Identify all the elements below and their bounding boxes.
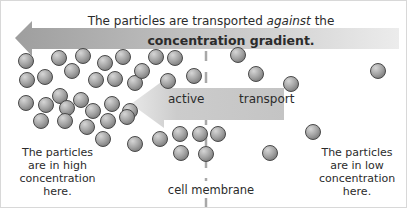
particle	[168, 51, 183, 66]
high-concentration-label: The particles are in high concentration …	[15, 146, 100, 198]
particle	[52, 51, 67, 66]
particle	[128, 137, 143, 152]
particle	[187, 69, 202, 84]
particle	[211, 127, 226, 142]
particle	[263, 146, 278, 161]
particle	[231, 48, 246, 63]
particle	[249, 67, 264, 82]
header-line-1: The particles are transported against th…	[61, 15, 361, 28]
transport-label: transport	[239, 93, 294, 106]
particle	[174, 146, 189, 161]
particle	[65, 64, 80, 79]
header-line-2: concentration gradient.	[131, 34, 331, 47]
particle	[153, 132, 168, 147]
particle	[19, 96, 34, 111]
particle	[39, 98, 54, 113]
diagram-frame: The particles are transported against th…	[0, 0, 407, 208]
particle	[58, 114, 73, 129]
low-concentration-label: The particles are in low concentration h…	[319, 146, 395, 198]
particle	[371, 64, 386, 79]
particle	[306, 125, 321, 140]
particle	[105, 97, 120, 112]
particle	[135, 64, 150, 79]
particle	[80, 120, 95, 135]
particle	[149, 50, 164, 65]
particle	[86, 104, 101, 119]
particle	[120, 110, 135, 125]
particle	[101, 114, 116, 129]
particle	[60, 101, 75, 116]
particle	[74, 93, 89, 108]
particle	[20, 73, 35, 88]
particle	[193, 127, 208, 142]
particle	[98, 56, 113, 71]
particle	[161, 74, 176, 89]
particle	[173, 127, 188, 142]
particle	[116, 50, 131, 65]
particle	[96, 132, 111, 147]
particle	[199, 147, 214, 162]
particle	[284, 77, 299, 92]
cell-membrane-label: cell membrane	[161, 184, 261, 197]
particle	[76, 49, 91, 64]
particle	[38, 70, 53, 85]
particle	[34, 114, 49, 129]
active-label: active	[168, 93, 204, 106]
particle	[19, 54, 34, 69]
particle	[89, 73, 104, 88]
particle	[108, 72, 123, 87]
